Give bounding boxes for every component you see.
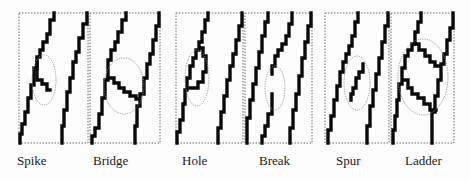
panel-spike (19, 13, 88, 143)
conductor-trace (432, 13, 453, 143)
pcb-defect-figure: Spike Bridge Hole Break Spur Ladder (0, 0, 470, 180)
conductor-trace (247, 13, 268, 143)
label-spur: Spur (336, 153, 361, 169)
conductor-trace (37, 62, 50, 90)
panel-break (245, 13, 312, 143)
conductor-trace (262, 94, 272, 143)
panel-frame (19, 13, 88, 143)
panel-spur (325, 13, 389, 143)
label-hole: Hole (182, 153, 207, 169)
conductor-trace (272, 13, 292, 74)
panel-ladder (391, 13, 454, 143)
conductor-trace (404, 80, 436, 110)
panel-hole (176, 13, 243, 143)
label-bridge: Bridge (93, 153, 128, 169)
panel-bridge (90, 13, 160, 143)
conductor-trace (135, 13, 159, 143)
defect-highlight-ellipse (265, 66, 285, 110)
conductor-trace (351, 64, 363, 100)
conductor-trace (367, 13, 388, 143)
conductor-trace (108, 78, 138, 99)
conductor-trace (290, 13, 311, 143)
defect-panels-canvas (0, 0, 470, 180)
conductor-trace (328, 13, 358, 143)
conductor-trace (218, 13, 242, 143)
conductor-trace (415, 44, 440, 66)
label-ladder: Ladder (405, 153, 442, 169)
conductor-trace (62, 13, 87, 143)
label-break: Break (259, 153, 290, 169)
label-spike: Spike (17, 153, 47, 169)
conductor-trace (393, 13, 421, 143)
